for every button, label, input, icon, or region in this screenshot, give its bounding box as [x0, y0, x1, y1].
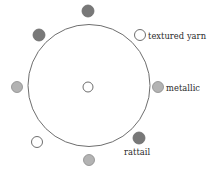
node-upper-left[interactable] — [33, 29, 45, 41]
node-right[interactable] — [153, 82, 164, 93]
node-lower-left[interactable] — [32, 137, 43, 148]
node-lower-right[interactable] — [133, 132, 145, 144]
node-bottom[interactable] — [84, 155, 95, 166]
node-upper-right[interactable] — [135, 30, 146, 41]
diagram-canvas: textured yarn metallic rattail — [0, 0, 219, 171]
legend-label-metallic: metallic — [166, 84, 200, 92]
center-node[interactable] — [83, 82, 93, 92]
node-left[interactable] — [12, 82, 23, 93]
legend-label-textured-yarn: textured yarn — [148, 32, 206, 40]
node-top[interactable] — [82, 5, 94, 17]
legend-label-rattail: rattail — [124, 148, 150, 156]
